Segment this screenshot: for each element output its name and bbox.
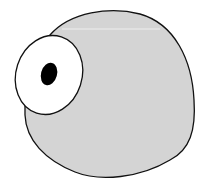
creature-illustration (0, 0, 207, 185)
drawing-canvas: Cartoon blob creature with one eye (0, 0, 207, 185)
